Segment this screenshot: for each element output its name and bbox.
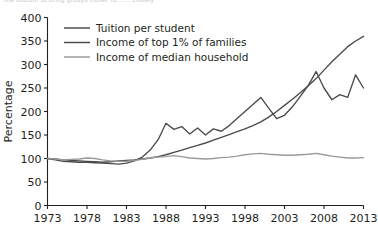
x-tick-label: 1978: [73, 212, 101, 225]
legend-label-0: Tuition per student: [95, 22, 195, 34]
chart-legend: Tuition per studentIncome of top 1% of f…: [64, 22, 248, 63]
chart-container: the bottom to bring groups closer to ...…: [0, 0, 378, 236]
x-tick-label: 1983: [113, 212, 141, 225]
x-tick-label: 2003: [271, 212, 299, 225]
y-tick-label: 350: [21, 35, 42, 48]
y-axis-tick-labels: 050100150200250300350400: [21, 12, 48, 213]
y-tick-label: 300: [21, 59, 42, 72]
line-chart: 050100150200250300350400 197319781983198…: [0, 0, 378, 236]
x-tick-label: 1993: [192, 212, 220, 225]
y-tick-label: 50: [28, 176, 42, 189]
x-axis-tick-labels: 197319781983198819931998200320082013: [34, 206, 378, 225]
x-tick-label: 1998: [231, 212, 259, 225]
x-tick-label: 2008: [310, 212, 338, 225]
series-line-1: [48, 72, 364, 165]
y-tick-label: 100: [21, 153, 42, 166]
series-line-2: [48, 153, 364, 161]
x-tick-label: 2013: [350, 212, 378, 225]
y-tick-label: 200: [21, 106, 42, 119]
x-tick-label: 1973: [34, 212, 62, 225]
legend-label-1: Income of top 1% of families: [96, 36, 246, 48]
y-axis-title: Percentage: [2, 80, 15, 142]
y-tick-label: 150: [21, 129, 42, 142]
y-tick-label: 250: [21, 82, 42, 95]
x-tick-label: 1988: [152, 212, 180, 225]
y-tick-label: 400: [21, 12, 42, 25]
legend-label-2: Income of median household: [96, 51, 248, 63]
